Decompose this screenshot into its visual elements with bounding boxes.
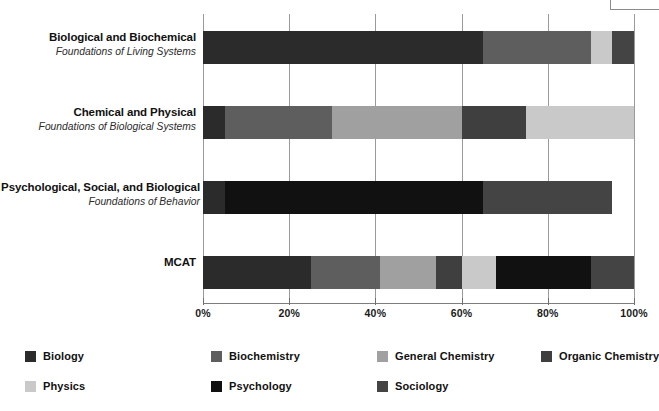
category-label-line1: Psychological, Social, and Biological xyxy=(0,181,200,195)
x-tick xyxy=(289,298,290,305)
bar-row xyxy=(203,256,634,289)
bar-segment xyxy=(225,181,484,214)
x-tick xyxy=(462,298,463,305)
bar-segment xyxy=(436,256,462,289)
x-tick-label: 0% xyxy=(180,307,226,319)
x-tick xyxy=(203,298,204,305)
x-tick-label: 20% xyxy=(266,307,312,319)
legend-label: Sociology xyxy=(395,380,448,392)
x-axis-line xyxy=(203,303,635,304)
plot-area xyxy=(203,14,634,304)
legend-label: Biology xyxy=(43,350,84,362)
legend-swatch-icon xyxy=(541,351,552,362)
x-tick-label: 80% xyxy=(525,307,571,319)
bar-segment xyxy=(591,31,613,64)
legend-swatch-icon xyxy=(25,351,36,362)
bar-segment xyxy=(591,256,634,289)
category-label-line2: Foundations of Behavior xyxy=(0,196,200,208)
gridline-100 xyxy=(634,14,635,304)
bar-segment xyxy=(332,106,461,139)
bar-segment xyxy=(203,31,483,64)
legend-label: Psychology xyxy=(229,380,292,392)
bar-segment xyxy=(483,31,591,64)
legend-item[interactable]: Organic Chemistry xyxy=(541,350,659,362)
bar-segment xyxy=(526,106,634,139)
category-label-line1: Biological and Biochemical xyxy=(0,31,196,45)
chart-legend: BiologyBiochemistryGeneral ChemistryOrga… xyxy=(0,350,659,406)
legend-item[interactable]: Psychology xyxy=(211,380,292,392)
category-label-psychological-social-and-biological: Psychological, Social, and Biological Fo… xyxy=(0,181,200,208)
x-tick xyxy=(375,298,376,305)
x-tick-label: 40% xyxy=(352,307,398,319)
x-tick xyxy=(634,298,635,305)
bar-segment xyxy=(203,106,225,139)
category-label-line1: MCAT xyxy=(0,256,196,270)
bar-row xyxy=(203,181,634,214)
bar-row xyxy=(203,31,634,64)
category-label-line1: Chemical and Physical xyxy=(0,106,196,120)
legend-item[interactable]: General Chemistry xyxy=(377,350,495,362)
legend-swatch-icon xyxy=(25,381,36,392)
bar-segment xyxy=(225,106,333,139)
legend-item[interactable]: Sociology xyxy=(377,380,448,392)
bar-segment xyxy=(311,256,380,289)
legend-item[interactable]: Physics xyxy=(25,380,85,392)
legend-item[interactable]: Biology xyxy=(25,350,84,362)
bar-segment xyxy=(462,256,496,289)
x-tick-label: 100% xyxy=(611,307,657,319)
legend-swatch-icon xyxy=(377,351,388,362)
bar-segment xyxy=(496,256,591,289)
legend-label: Organic Chemistry xyxy=(559,350,659,362)
bar-segment xyxy=(483,181,612,214)
legend-label: Physics xyxy=(43,380,85,392)
legend-item[interactable]: Biochemistry xyxy=(211,350,300,362)
stacked-bar-chart: Biological and Biochemical Foundations o… xyxy=(0,0,659,411)
category-label-line2: Foundations of Living Systems xyxy=(0,46,196,58)
bar-row xyxy=(203,106,634,139)
x-tick xyxy=(548,298,549,305)
bar-segment xyxy=(612,31,634,64)
legend-label: General Chemistry xyxy=(395,350,495,362)
x-tick-label: 60% xyxy=(439,307,485,319)
bar-segment xyxy=(203,256,311,289)
category-label-chemical-and-physical: Chemical and Physical Foundations of Bio… xyxy=(0,106,196,133)
corner-artifact xyxy=(610,0,659,10)
legend-swatch-icon xyxy=(211,381,222,392)
legend-label: Biochemistry xyxy=(229,350,300,362)
bar-segment xyxy=(462,106,527,139)
category-label-biological-and-biochemical: Biological and Biochemical Foundations o… xyxy=(0,31,196,58)
legend-swatch-icon xyxy=(377,381,388,392)
bar-segment xyxy=(380,256,436,289)
category-label-line2: Foundations of Biological Systems xyxy=(0,121,196,133)
legend-swatch-icon xyxy=(211,351,222,362)
bar-segment xyxy=(203,181,225,214)
category-label-mcat: MCAT xyxy=(0,256,196,270)
